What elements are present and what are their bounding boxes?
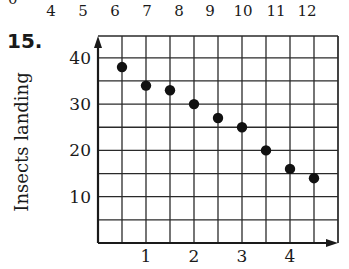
data-point	[213, 113, 223, 123]
grid-lines	[98, 36, 338, 243]
data-point	[261, 145, 271, 155]
x-axis-arrow-icon	[326, 239, 338, 247]
y-axis-arrow-icon	[94, 36, 102, 48]
data-point	[237, 122, 247, 132]
data-point	[117, 62, 127, 72]
data-point	[309, 173, 319, 183]
axes	[94, 36, 338, 247]
data-point	[165, 85, 175, 95]
scatter-plot	[0, 0, 349, 269]
data-point	[141, 80, 151, 90]
data-point	[189, 99, 199, 109]
data-point	[285, 164, 295, 174]
